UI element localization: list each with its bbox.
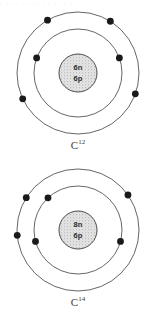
- electron: [14, 232, 21, 239]
- atom-diagram-carbon-14: 8n 6p C14: [0, 163, 156, 308]
- electron: [132, 90, 139, 97]
- electron: [19, 95, 26, 102]
- nucleus: [59, 54, 97, 92]
- electron: [23, 194, 30, 201]
- isotope-label-carbon-12: C12: [0, 139, 156, 151]
- nucleus-neutron-label: 6n: [74, 63, 83, 72]
- nucleus-neutron-label: 8n: [74, 220, 83, 229]
- electron: [44, 17, 51, 24]
- atom-diagram-carbon-12: 6n 6p C12: [0, 6, 156, 151]
- isotope-label-carbon-14: C14: [0, 296, 156, 308]
- electron: [116, 55, 123, 62]
- isotope-mass-number: 12: [78, 138, 85, 146]
- electron: [107, 18, 114, 25]
- nucleus-proton-label: 6p: [74, 231, 83, 240]
- electron: [32, 238, 39, 245]
- nucleus-proton-label: 6p: [74, 74, 83, 83]
- electron: [33, 55, 40, 62]
- atom-diagram-page: · ·· · ··· ·· · · · ·· · 6n 6p C12: [0, 0, 156, 325]
- nucleus: [59, 211, 97, 249]
- electron: [125, 192, 132, 199]
- isotope-mass-number: 14: [78, 295, 85, 303]
- electron: [45, 194, 52, 201]
- bohr-model-carbon-12: 6n 6p: [7, 6, 149, 140]
- electron: [117, 238, 124, 245]
- bohr-model-carbon-14: 8n 6p: [7, 163, 149, 297]
